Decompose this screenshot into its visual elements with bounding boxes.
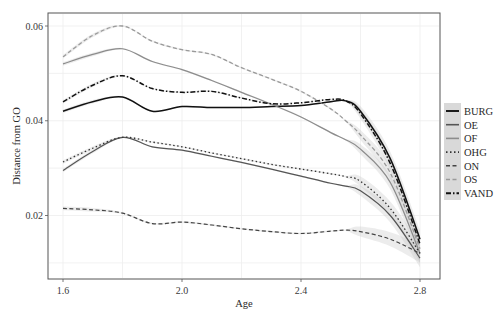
legend-label: OE [464,120,478,131]
y-tick-label: 0.06 [26,21,44,32]
y-axis-title: Distance from GO [11,107,22,185]
legend-label: OS [464,174,478,185]
x-tick-label: 2.8 [414,285,427,296]
legend-label: OF [464,133,478,144]
legend-label: ON [464,161,480,172]
line-chart: 1.62.02.42.8 0.020.040.06 Age Distance f… [0,0,504,325]
legend-label: BURG [464,106,494,117]
y-tick-label: 0.04 [26,115,44,126]
y-axis: 0.020.040.06 [26,21,49,222]
legend-label: VAND [464,188,493,199]
legend-label: OHG [464,147,487,158]
x-tick-label: 2.0 [176,285,189,296]
x-axis: 1.62.02.42.8 [57,279,427,296]
legend: BURGOEOFOHGONOSVAND [444,103,494,200]
x-tick-label: 2.4 [295,285,308,296]
x-axis-title: Age [235,298,253,309]
y-tick-label: 0.02 [26,210,44,221]
x-tick-label: 1.6 [57,285,70,296]
